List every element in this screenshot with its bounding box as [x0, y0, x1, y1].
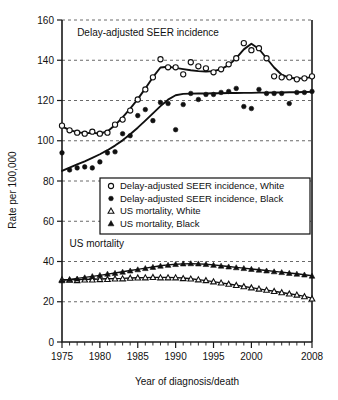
- data-point-series-0: [302, 76, 307, 81]
- data-point-series-0: [75, 130, 80, 135]
- data-point-series-1: [151, 118, 156, 123]
- y-tick-label: 60: [43, 216, 55, 227]
- y-tick-label: 0: [48, 337, 54, 348]
- legend-label: Delay-adjusted SEER incidence, White: [120, 180, 284, 191]
- data-point-series-0: [218, 67, 223, 72]
- data-point-series-0: [249, 48, 254, 53]
- data-point-series-0: [294, 77, 299, 82]
- data-point-series-1: [302, 90, 307, 95]
- data-point-series-0: [135, 97, 140, 102]
- y-tick-label: 20: [43, 296, 55, 307]
- data-point-series-0: [143, 87, 148, 92]
- y-tick-label: 100: [37, 135, 54, 146]
- incidence-mortality-line-chart: 020406080100120140160 197519801985199019…: [0, 0, 338, 400]
- y-tick-label: 80: [43, 176, 55, 187]
- legend-marker-solid-circle: [109, 196, 114, 201]
- data-point-series-0: [279, 75, 284, 80]
- data-point-series-0: [226, 62, 231, 67]
- chart-figure: 020406080100120140160 197519801985199019…: [0, 0, 338, 400]
- data-point-series-1: [135, 113, 140, 118]
- data-point-series-1: [166, 101, 171, 106]
- data-point-series-1: [128, 133, 133, 138]
- data-point-series-1: [98, 160, 103, 165]
- data-point-series-0: [112, 122, 117, 127]
- data-point-series-1: [257, 87, 262, 92]
- data-point-series-0: [241, 41, 246, 46]
- data-point-series-0: [128, 108, 133, 113]
- legend-label: US mortality, White: [120, 205, 201, 216]
- data-point-series-1: [105, 151, 110, 156]
- data-point-series-1: [82, 165, 87, 170]
- data-point-series-0: [97, 131, 102, 136]
- data-point-series-1: [310, 89, 315, 94]
- data-point-series-0: [105, 130, 110, 135]
- data-point-series-0: [173, 65, 178, 70]
- data-point-series-1: [204, 92, 209, 97]
- legend-label: Delay-adjusted SEER incidence, Black: [120, 193, 283, 204]
- data-point-series-0: [120, 117, 125, 122]
- data-point-series-1: [249, 106, 254, 111]
- data-point-series-1: [60, 151, 65, 156]
- data-point-series-0: [165, 65, 170, 70]
- data-point-series-0: [272, 74, 277, 79]
- y-axis-title: Rate per 100,000: [7, 151, 18, 229]
- data-point-series-0: [181, 72, 186, 77]
- data-point-series-1: [272, 91, 277, 96]
- x-tick-label: 1975: [51, 351, 74, 362]
- data-point-series-1: [188, 91, 193, 96]
- x-tick-label: 2000: [240, 351, 263, 362]
- legend-label: US mortality, Black: [120, 218, 200, 229]
- legend-marker-open-circle: [108, 183, 113, 188]
- data-point-series-1: [242, 104, 247, 109]
- data-point-series-0: [67, 128, 72, 133]
- x-tick-label: 1995: [202, 351, 225, 362]
- data-point-series-0: [234, 56, 239, 61]
- data-point-series-1: [196, 97, 201, 102]
- data-point-series-1: [279, 91, 284, 96]
- data-point-series-0: [82, 131, 87, 136]
- data-point-series-1: [113, 150, 118, 155]
- y-tick-label: 120: [37, 95, 54, 106]
- data-point-series-1: [143, 107, 148, 112]
- data-point-series-1: [226, 89, 231, 94]
- data-point-series-0: [309, 74, 314, 79]
- data-point-series-1: [120, 131, 125, 136]
- data-point-series-1: [67, 168, 72, 173]
- data-point-series-0: [150, 75, 155, 80]
- data-point-series-0: [158, 57, 163, 62]
- data-point-series-1: [158, 100, 163, 105]
- x-tick-label: 2008: [301, 351, 324, 362]
- data-point-series-1: [75, 166, 80, 171]
- y-tick-label: 140: [37, 55, 54, 66]
- data-point-series-1: [181, 102, 186, 107]
- data-point-series-0: [211, 70, 216, 75]
- y-tick-label: 160: [37, 15, 54, 26]
- data-point-series-0: [256, 46, 261, 51]
- data-point-series-0: [264, 56, 269, 61]
- x-tick-label: 1985: [127, 351, 150, 362]
- data-point-series-1: [234, 86, 239, 91]
- data-point-series-1: [211, 92, 216, 97]
- data-point-series-0: [188, 60, 193, 65]
- data-point-series-0: [90, 129, 95, 134]
- x-tick-label: 1990: [165, 351, 188, 362]
- data-point-series-0: [203, 66, 208, 71]
- chart-legend: Delay-adjusted SEER incidence, WhiteDela…: [100, 178, 310, 234]
- data-point-series-0: [196, 64, 201, 69]
- data-point-series-0: [59, 123, 64, 128]
- x-axis-title: Year of diagnosis/death: [135, 376, 239, 387]
- y-tick-label: 40: [43, 256, 55, 267]
- x-tick-label: 1980: [89, 351, 112, 362]
- annotation-label: Delay-adjusted SEER incidence: [77, 27, 219, 38]
- data-point-series-1: [219, 90, 224, 95]
- data-point-series-0: [287, 75, 292, 80]
- data-point-series-1: [264, 91, 269, 96]
- annotation-label: US mortality: [70, 238, 124, 249]
- data-point-series-1: [287, 101, 292, 106]
- data-point-series-1: [90, 166, 95, 171]
- data-point-series-1: [295, 90, 300, 95]
- data-point-series-1: [173, 127, 178, 132]
